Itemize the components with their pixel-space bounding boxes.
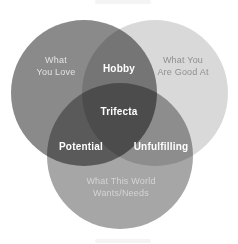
- venn-diagram: What You Love What You Are Good At What …: [0, 0, 238, 244]
- cropped-edge-artifact-bottom: [95, 239, 151, 243]
- circle-what-this-world-wants-needs: [47, 83, 193, 229]
- cropped-edge-artifact-top: [95, 0, 151, 4]
